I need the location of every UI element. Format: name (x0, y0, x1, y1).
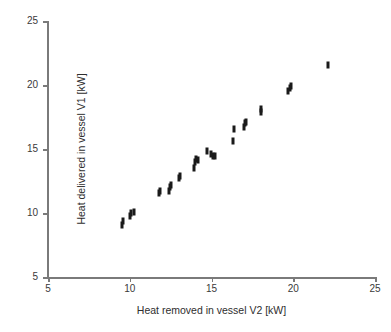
data-point (231, 138, 234, 145)
data-point (158, 187, 161, 194)
data-point (244, 119, 247, 126)
x-tick-label-25: 25 (369, 284, 380, 294)
x-tick-10: 10 (130, 277, 132, 282)
x-tick-25: 25 (375, 277, 377, 282)
x-tick-5: 5 (48, 277, 50, 282)
data-point (326, 62, 329, 69)
x-tick-label-20: 20 (288, 284, 299, 294)
y-tick-10: 10 (43, 213, 48, 215)
data-point (178, 172, 181, 179)
y-tick-label-25: 25 (27, 16, 38, 26)
y-tick-25: 25 (43, 21, 48, 23)
x-tick-label-10: 10 (124, 284, 135, 294)
x-tick-label-5: 5 (45, 284, 51, 294)
x-axis-title: Heat removed in vessel V2 [kW] (48, 305, 375, 316)
data-point (260, 106, 263, 113)
data-point (169, 181, 172, 188)
y-tick-label-20: 20 (27, 80, 38, 90)
scatter-chart-figure: 510152025 510152025 Heat removed in vess… (0, 0, 391, 332)
y-tick-label-15: 15 (27, 144, 38, 154)
y-tick-15: 15 (43, 149, 48, 151)
x-tick-label-15: 15 (206, 284, 217, 294)
y-tick-label-10: 10 (27, 208, 38, 218)
y-tick-20: 20 (43, 85, 48, 87)
data-point (289, 82, 292, 89)
data-point (197, 156, 200, 163)
y-axis-title: Heat delivered in vessel V1 [kW] (76, 73, 87, 224)
x-tick-15: 15 (212, 277, 214, 282)
x-tick-20: 20 (293, 277, 295, 282)
data-point (122, 217, 125, 224)
y-tick-label-5: 5 (32, 272, 38, 282)
data-point (232, 125, 235, 132)
plot-area: 510152025 510152025 (48, 21, 375, 277)
data-point (213, 153, 216, 160)
data-point (132, 208, 135, 215)
